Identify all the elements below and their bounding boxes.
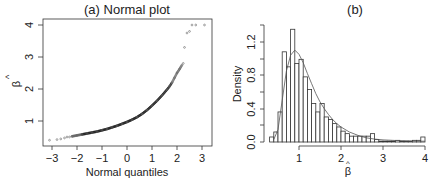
qq-point	[60, 138, 62, 140]
qq-points	[49, 24, 206, 141]
panel-b-xtick: 2	[338, 152, 344, 164]
histogram-bar	[316, 112, 320, 142]
panel-b-title: (b)	[347, 2, 363, 17]
qq-point	[64, 137, 66, 139]
panel-a-ytick-1: 1	[23, 118, 35, 124]
histogram-bar	[400, 141, 404, 142]
panel-a-xtick: 3	[199, 152, 205, 164]
histogram-bar	[375, 140, 379, 143]
panel-a-x-axis	[52, 146, 202, 150]
panel-a-xlabel: Normal quantiles	[86, 166, 169, 178]
qq-point	[189, 31, 191, 33]
panel-b-ytick: 0.4	[245, 101, 257, 116]
panel-b-ytick: 0.8	[245, 67, 257, 82]
histogram-bars	[270, 29, 425, 142]
histogram-bar	[320, 104, 324, 142]
histogram-bar	[312, 104, 316, 142]
panel-a-xtick: 1	[149, 152, 155, 164]
histogram-bar	[303, 77, 307, 142]
panel-a-y-axis	[38, 25, 43, 121]
histogram-panel: (b) 0.0 0.4 0.8 1.2 Density 1 2	[231, 2, 428, 177]
qq-point	[195, 24, 197, 26]
panel-b-ytick: 1.2	[245, 34, 257, 49]
histogram-bar	[345, 134, 349, 142]
figure: (a) Normal plot 4 3 2 1 β ^ −3 −2 −1 0	[0, 0, 435, 186]
panel-b-ylabel: Density	[231, 65, 243, 102]
panel-a-xtick: −2	[71, 152, 84, 164]
panel-a-ytick-3: 3	[23, 54, 35, 60]
histogram-bar	[328, 119, 332, 142]
panel-b-xtick: 3	[380, 152, 386, 164]
histogram-bar	[387, 141, 391, 142]
histogram-bar	[383, 141, 387, 142]
panel-b-ytick: 0.0	[245, 134, 257, 149]
histogram-bar	[333, 124, 337, 142]
histogram-bar	[349, 136, 353, 142]
panel-a-xtick: 2	[174, 152, 180, 164]
qq-point	[49, 139, 51, 141]
histogram-bar	[366, 136, 370, 142]
histogram-bar	[337, 127, 341, 142]
histogram-bar	[295, 64, 299, 142]
histogram-bar	[307, 89, 311, 142]
panel-a-xtick: 0	[124, 152, 130, 164]
panel-a-ylabel-hat: ^	[4, 74, 14, 79]
panel-a-xtick: −1	[96, 152, 109, 164]
histogram-bar	[354, 136, 358, 142]
panel-b-xtick: 1	[296, 152, 302, 164]
histogram-bar	[370, 134, 374, 142]
qq-point	[182, 63, 184, 65]
histogram-bar	[341, 131, 345, 142]
qq-point	[66, 136, 68, 138]
histogram-bar	[270, 137, 274, 142]
panel-b-y-axis	[260, 25, 264, 142]
qq-point	[186, 32, 188, 34]
panel-b-xlabel-beta: β	[345, 165, 351, 177]
histogram-bar	[391, 141, 395, 142]
histogram-bar	[286, 67, 290, 142]
histogram-bar	[299, 59, 303, 142]
panel-a-title: (a) Normal plot	[84, 2, 170, 17]
histogram-bar	[358, 136, 362, 142]
panel-a-plot-box	[43, 19, 212, 146]
panel-a-ytick-4: 4	[23, 22, 35, 28]
panel-b-x-axis	[299, 146, 425, 150]
qq-point	[69, 136, 71, 138]
qq-point	[204, 24, 206, 26]
panel-a-ylabel-beta: β	[10, 81, 22, 87]
histogram-bar	[379, 141, 383, 142]
qq-point	[184, 47, 186, 49]
qq-point	[191, 24, 193, 26]
panel-a-ytick-2: 2	[23, 86, 35, 92]
panel-b-xtick: 4	[422, 152, 428, 164]
panel-a-xtick: −3	[46, 152, 59, 164]
histogram-bar	[291, 29, 295, 142]
histogram-bar	[324, 117, 328, 142]
normal-plot-panel: (a) Normal plot 4 3 2 1 β ^ −3 −2 −1 0	[4, 2, 212, 178]
qq-point	[56, 139, 58, 141]
